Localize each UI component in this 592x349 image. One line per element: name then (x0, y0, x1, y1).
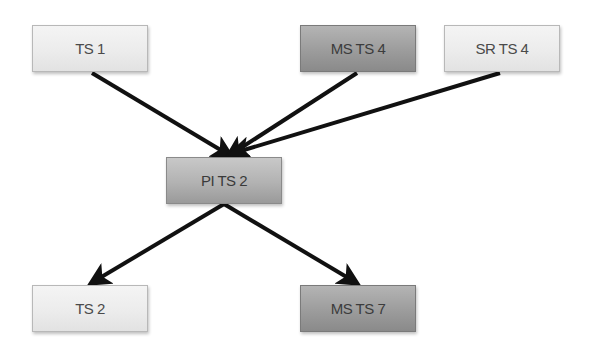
edge-pits2-to-msts7 (224, 204, 355, 282)
node-ts2-label: TS 2 (75, 300, 105, 317)
node-ts1: TS 1 (32, 25, 148, 72)
edge-srts4-to-pits2 (234, 73, 500, 153)
edge-msts4-to-pits2 (230, 73, 357, 155)
node-msts7-label: MS TS 7 (331, 300, 386, 317)
node-pits2-label: PI TS 2 (201, 172, 247, 189)
diagram-canvas: TS 1 MS TS 4 SR TS 4 PI TS 2 TS 2 MS TS … (0, 0, 592, 349)
edge-ts1-to-pits2 (92, 73, 229, 155)
node-srts4: SR TS 4 (444, 25, 560, 72)
node-ts1-label: TS 1 (75, 40, 105, 57)
node-srts4-label: SR TS 4 (476, 40, 529, 57)
edge-pits2-to-ts2 (93, 204, 224, 282)
node-msts7: MS TS 7 (300, 285, 416, 332)
node-pits2: PI TS 2 (166, 157, 282, 204)
node-ts2: TS 2 (32, 285, 148, 332)
node-msts4: MS TS 4 (300, 25, 416, 72)
node-msts4-label: MS TS 4 (331, 40, 386, 57)
